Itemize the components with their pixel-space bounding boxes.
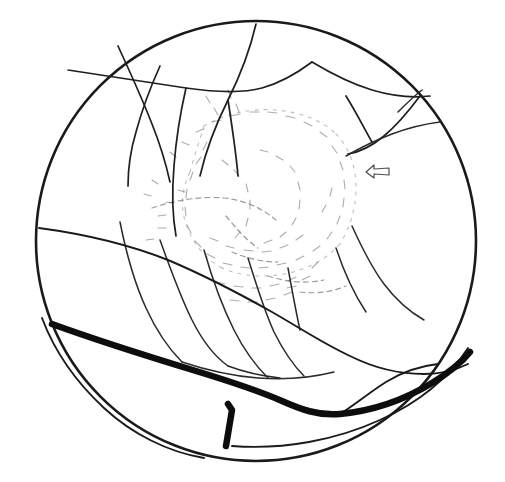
fundus-drawing-canvas [0, 0, 505, 482]
fundus-figure [0, 0, 505, 482]
